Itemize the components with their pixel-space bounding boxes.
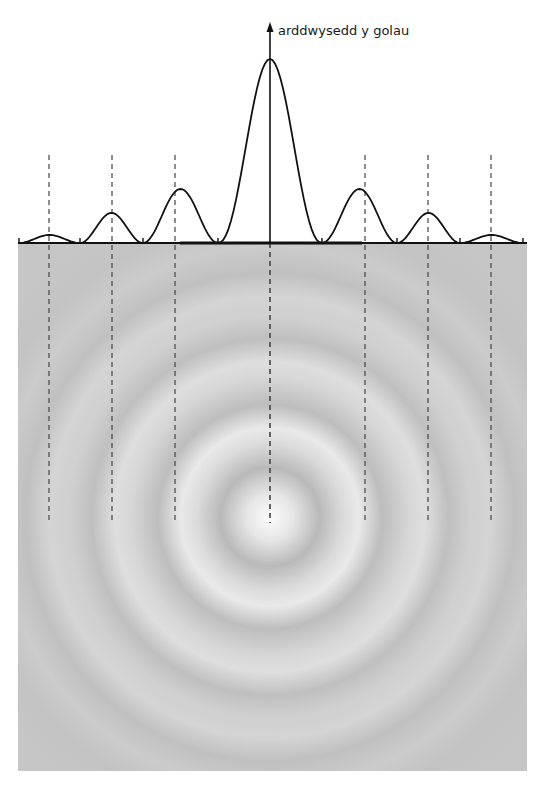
airy-pattern-image — [18, 244, 527, 771]
intensity-axis-label: arddwysedd y golau — [278, 23, 409, 38]
arrow-up-icon — [267, 22, 274, 32]
diffraction-diagram: arddwysedd y golau — [0, 0, 556, 789]
intensity-profile-curve — [19, 59, 523, 243]
